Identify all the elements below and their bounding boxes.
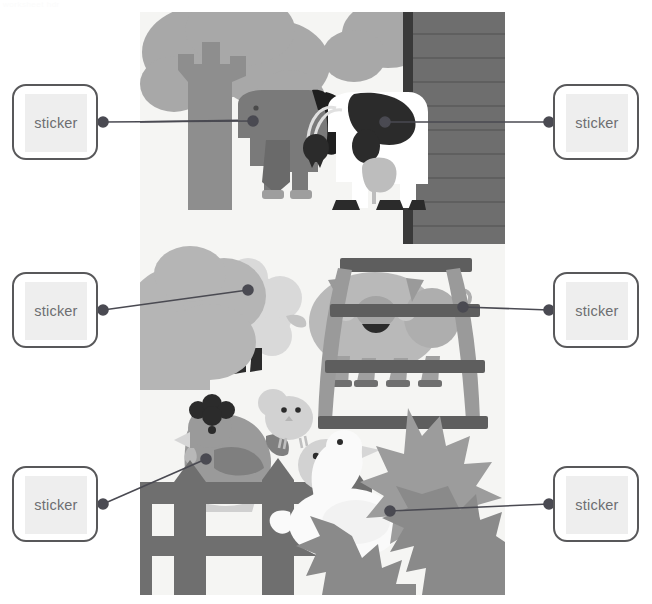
gate-rail-4	[318, 416, 488, 429]
sticker-slot-bottom-right[interactable]: sticker	[553, 466, 639, 542]
hen-eye	[208, 426, 216, 434]
worksheet-page: worksheet hdr	[0, 0, 652, 604]
connector-dot-slot	[98, 117, 108, 127]
sticker-slot-mid-left[interactable]: sticker	[12, 272, 98, 348]
goose-head	[326, 430, 362, 462]
farm-scene-illustration	[140, 12, 505, 595]
fence-picket-1	[174, 460, 206, 595]
sticker-label: sticker	[575, 497, 618, 513]
sticker-slot-top-right[interactable]: sticker	[553, 84, 639, 160]
tree-foliage-right-2	[322, 30, 386, 82]
sticker-label: sticker	[34, 303, 77, 319]
sticker-label: sticker	[575, 303, 618, 319]
sticker-placeholder: sticker	[25, 94, 87, 152]
sticker-placeholder: sticker	[25, 282, 87, 340]
connector-dot-slot	[98, 499, 108, 509]
gate-rail-3	[325, 360, 485, 373]
sticker-placeholder: sticker	[566, 476, 628, 534]
sticker-slot-mid-right[interactable]: sticker	[553, 272, 639, 348]
sticker-slot-bottom-left[interactable]: sticker	[12, 466, 98, 542]
farm-scene-svg	[140, 12, 505, 595]
sticker-placeholder: sticker	[566, 94, 628, 152]
header-note: worksheet hdr	[3, 0, 60, 9]
cow-head	[303, 134, 329, 162]
sticker-label: sticker	[34, 497, 77, 513]
sticker-label: sticker	[34, 115, 77, 131]
connector-dot-slot	[98, 305, 108, 315]
gate-rail-2	[330, 304, 480, 317]
sticker-slot-top-left[interactable]: sticker	[12, 84, 98, 160]
sticker-placeholder: sticker	[25, 476, 87, 534]
sticker-label: sticker	[575, 115, 618, 131]
sticker-placeholder: sticker	[566, 282, 628, 340]
